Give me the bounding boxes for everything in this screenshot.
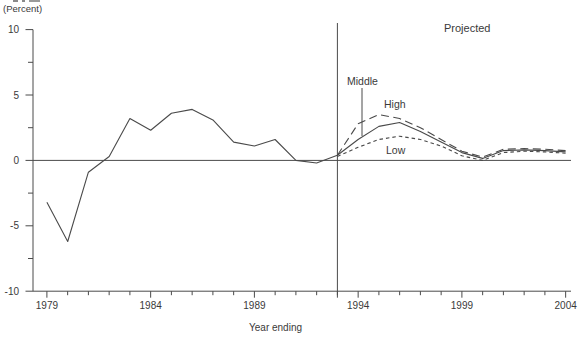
high-series-label: High	[384, 98, 406, 110]
series-historical-line	[47, 109, 338, 241]
y-tick-label: 10	[8, 24, 20, 35]
y-tick-label: 0	[13, 155, 19, 166]
series-low-line	[337, 136, 565, 160]
middle-series-label: Middle	[347, 75, 378, 87]
x-tick-label: 1989	[243, 300, 266, 311]
series-middle-line	[337, 123, 565, 159]
x-tick-label: 1979	[36, 300, 59, 311]
y-tick-label: 5	[13, 90, 19, 101]
x-tick-label: 1984	[140, 300, 163, 311]
chart-figure: (Percent) 1050-5-10197919841989199419992…	[0, 0, 579, 339]
low-series-label: Low	[386, 144, 405, 156]
x-tick-label: 1994	[347, 300, 370, 311]
projected-region-label: Projected	[444, 22, 490, 34]
y-tick-label: -10	[5, 286, 20, 297]
x-tick-label: 1999	[451, 300, 474, 311]
y-tick-label: -5	[10, 220, 19, 231]
x-axis-title: Year ending	[249, 322, 302, 333]
x-tick-label: 2004	[555, 300, 578, 311]
line-chart-canvas: 1050-5-10197919841989199419992004	[0, 0, 579, 339]
